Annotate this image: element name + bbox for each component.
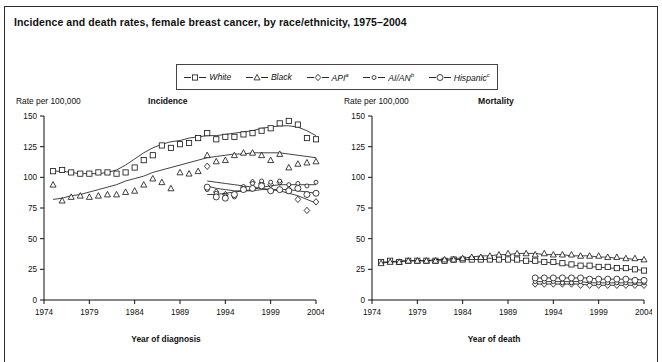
svg-text:50: 50 [28,235,38,244]
svg-text:1979: 1979 [80,308,99,317]
legend-label: Hispanicc [454,72,490,83]
svg-text:150: 150 [351,112,365,121]
svg-text:125: 125 [23,143,37,152]
plot-mortality: 0255075100125150197419791984198919941999… [336,106,652,334]
y-axis-title-incidence: Rate per 100,000 [16,96,81,106]
legend-item-black[interactable]: Black [246,72,292,83]
small-circle-marker-icon [363,72,385,83]
diamond-marker-icon [307,72,329,83]
panel-title-mortality: Mortality [478,96,514,106]
y-axis-title-mortality: Rate per 100,000 [344,96,409,106]
triangle-marker-icon [246,72,268,83]
legend-label: Black [271,72,292,82]
plot-incidence: 0255075100125150197419791984198919941999… [8,106,324,334]
legend-footnote-marker: c [487,72,490,78]
legend-item-hispanic[interactable]: Hispanicc [429,72,490,83]
panel-incidence: Rate per 100,000 Incidence 0255075100125… [8,96,324,354]
svg-text:25: 25 [28,265,38,274]
panel-mortality: Rate per 100,000 Mortality 0255075100125… [336,96,652,354]
circle-marker-icon [429,72,451,83]
legend-label: APIa [332,72,349,83]
legend-label: White [209,72,231,82]
svg-text:2004: 2004 [635,308,652,317]
x-axis-title-mortality: Year of death [336,334,652,344]
svg-text:2004: 2004 [307,308,324,317]
legend-label: AI/ANb [388,72,414,83]
svg-text:1979: 1979 [408,308,427,317]
svg-text:150: 150 [23,112,37,121]
svg-text:50: 50 [356,235,366,244]
svg-text:1994: 1994 [544,308,563,317]
square-marker-icon [184,72,206,83]
svg-text:1984: 1984 [126,308,145,317]
svg-text:1999: 1999 [590,308,609,317]
page-title: Incidence and death rates, female breast… [14,16,407,28]
chart-legend: WhiteBlackAPIaAI/ANbHispanicc [176,64,498,90]
svg-text:75: 75 [28,204,38,213]
svg-text:0: 0 [32,296,37,305]
figure-page: Incidence and death rates, female breast… [0,0,662,362]
svg-text:1989: 1989 [499,308,518,317]
svg-text:1999: 1999 [262,308,281,317]
legend-item-white[interactable]: White [184,72,231,83]
panel-title-incidence: Incidence [148,96,188,106]
svg-text:100: 100 [23,173,37,182]
legend-item-api[interactable]: APIa [307,72,349,83]
svg-text:1994: 1994 [216,308,235,317]
svg-text:125: 125 [351,143,365,152]
svg-text:100: 100 [351,173,365,182]
svg-text:0: 0 [360,296,365,305]
svg-text:1974: 1974 [35,308,54,317]
svg-text:1989: 1989 [171,308,190,317]
legend-item-ai-an[interactable]: AI/ANb [363,72,414,83]
svg-text:1984: 1984 [454,308,473,317]
x-axis-title-incidence: Year of diagnosis [8,334,324,344]
svg-text:25: 25 [356,265,366,274]
legend-footnote-marker: b [411,72,414,78]
svg-text:1974: 1974 [363,308,382,317]
legend-footnote-marker: a [345,72,348,78]
svg-text:75: 75 [356,204,366,213]
